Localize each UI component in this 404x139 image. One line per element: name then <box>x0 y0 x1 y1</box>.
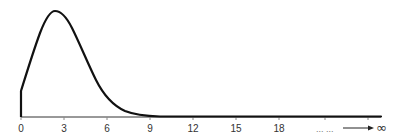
tick-label-9: 9 <box>147 123 153 134</box>
axis-ellipsis: ... ... <box>316 124 334 134</box>
tick-label-3: 3 <box>61 123 67 134</box>
infinity-label: ∞ <box>376 120 387 135</box>
x-axis-tick-labels: 0 3 6 9 12 15 18 <box>18 123 285 134</box>
tick-label-15: 15 <box>230 123 242 134</box>
tick-label-12: 12 <box>187 123 199 134</box>
density-curve <box>21 11 381 117</box>
tick-label-0: 0 <box>18 123 24 134</box>
tick-label-6: 6 <box>104 123 110 134</box>
arrow-head-icon <box>368 126 374 131</box>
density-chart: 0 3 6 9 12 15 18 ... ... ∞ <box>0 0 404 139</box>
tick-label-18: 18 <box>273 123 285 134</box>
